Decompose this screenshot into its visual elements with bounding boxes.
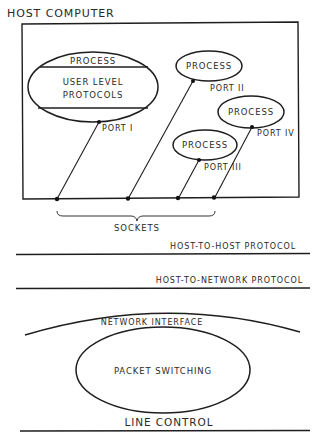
port-3-connector (178, 160, 199, 199)
socket-dot (212, 195, 216, 199)
host-to-network-line (16, 288, 310, 289)
protocols-label: PROTOCOLS (63, 90, 123, 100)
process-4-label: PROCESS (228, 107, 274, 117)
port-1-connector (57, 122, 99, 199)
port-3-label: PORT III (204, 163, 242, 172)
main-process-label: PROCESS (70, 56, 116, 66)
port-3-dot (197, 158, 201, 162)
socket-dot (126, 196, 130, 200)
socket-dot (176, 196, 180, 200)
host-computer-title: HOST COMPUTER (7, 7, 115, 20)
host-to-network-label: HOST-TO-NETWORK PROTOCOL (156, 276, 303, 285)
port-4-dot (250, 125, 254, 129)
process-2-label: PROCESS (186, 61, 232, 71)
sockets-label: SOCKETS (114, 223, 160, 233)
port-1-label: PORT I (102, 124, 133, 133)
line-control-label: LINE CONTROL (125, 416, 214, 428)
port-1-dot (97, 120, 101, 124)
port-2-label: PORT II (210, 84, 245, 93)
network-interface-label: NETWORK INTERFACE (101, 318, 203, 327)
packet-switching-label: PACKET SWITCHING (114, 366, 212, 376)
port-4-label: PORT IV (257, 129, 295, 138)
user-level-label: USER LEVEL (63, 77, 124, 87)
process-3-label: PROCESS (182, 140, 228, 150)
port-2-dot (191, 79, 195, 83)
network-architecture-diagram: HOST COMPUTER PROCESS USER LEVEL PROTOCO… (0, 0, 327, 438)
host-to-host-label: HOST-TO-HOST PROTOCOL (170, 242, 296, 251)
sockets-brace (57, 211, 215, 221)
line-control-line (20, 431, 310, 432)
socket-dot (55, 197, 59, 201)
host-to-host-line (16, 254, 310, 255)
